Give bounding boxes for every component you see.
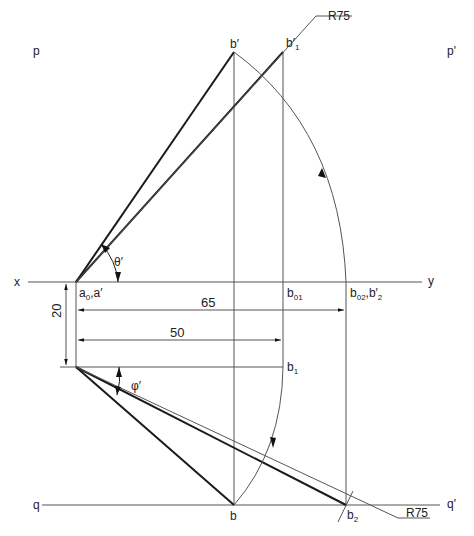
label-b1: b1 (287, 361, 298, 376)
dim-label-65: 65 (201, 296, 215, 309)
label-theta: θ′ (114, 256, 123, 268)
label-x: x (14, 276, 20, 288)
dim-label-20: 20 (50, 304, 63, 318)
arc-bottom (234, 367, 283, 505)
dim-label-50: 50 (170, 326, 184, 339)
label-b-prime: b′ (230, 38, 239, 50)
label-p-prime: p' (447, 45, 456, 57)
label-phi: φ′ (131, 380, 141, 392)
r75-construction-top (76, 16, 316, 282)
label-y: y (428, 275, 434, 287)
label-b01: b01 (287, 287, 303, 302)
label-a0-a-prime: a0,a′ (79, 287, 102, 302)
label-q-prime: q' (447, 498, 456, 510)
label-b02-b2-prime: b02,b′2 (350, 287, 382, 302)
label-b: b (230, 510, 237, 522)
drawing-svg (0, 0, 474, 536)
label-r75-top: R75 (328, 10, 350, 22)
label-b1-prime: b′1 (286, 37, 299, 52)
label-b2: b2 (347, 509, 358, 524)
label-p: p (33, 45, 40, 57)
label-r75-bottom: R75 (406, 507, 428, 519)
front-view-ab-prime (76, 52, 234, 282)
diagram-canvas: p p' x y q q' b′ b′1 R75 a0,a′ b01 b02,b… (0, 0, 474, 536)
arc-top-arrow (318, 168, 326, 178)
label-q: q (33, 499, 40, 511)
r75-construction-bottom (76, 367, 398, 518)
